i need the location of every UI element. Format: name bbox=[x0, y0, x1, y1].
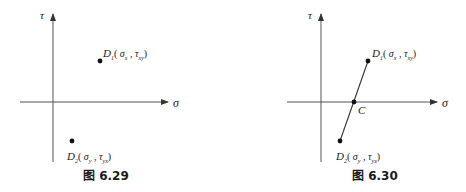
point-d1 bbox=[98, 59, 103, 64]
point-d1-label: D1( σx , τxy) bbox=[103, 48, 147, 61]
figure-6-29-axes bbox=[20, 14, 168, 162]
point-d2 bbox=[338, 139, 343, 144]
figure-caption: 图 6.29 bbox=[83, 170, 129, 182]
figure-caption: 图 6.30 bbox=[352, 170, 398, 182]
point-d2-label: D2( σy , τyx) bbox=[67, 151, 111, 164]
point-d2 bbox=[70, 139, 75, 144]
tau-axis-label: τ bbox=[40, 10, 44, 21]
point-d1 bbox=[366, 59, 371, 64]
tau-axis-label: τ bbox=[308, 10, 312, 21]
point-d1-label: D1( σx , τxy) bbox=[372, 48, 416, 61]
sigma-axis-label: σ bbox=[173, 97, 179, 109]
figure-6-30-axes bbox=[287, 14, 437, 162]
point-c-label: C bbox=[358, 105, 365, 116]
point-d2-label: D2( σy , τyx) bbox=[336, 151, 380, 164]
point-c bbox=[352, 100, 357, 105]
sigma-axis-label: σ bbox=[442, 97, 448, 109]
